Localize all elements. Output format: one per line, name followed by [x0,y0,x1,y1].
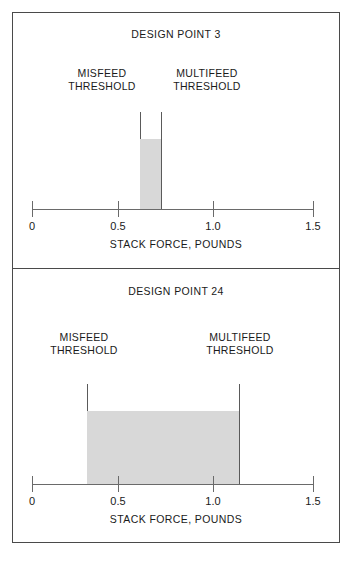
x-tick-0-5 [118,476,119,492]
operating-window-bar [87,411,239,484]
multifeed-threshold-label-line1: MULTIFEED [176,67,237,79]
misfeed-threshold-label-line2: THRESHOLD [46,344,122,357]
x-tick-0-5 [118,201,119,217]
multifeed-threshold-label: MULTIFEED THRESHOLD [164,67,250,93]
x-tick-label-1-5: 1.5 [299,220,327,232]
panel-title: DESIGN POINT 3 [12,28,340,40]
x-tick-1-5 [313,476,314,492]
x-tick-label-0: 0 [18,220,46,232]
panel-design-point-24: DESIGN POINT 24 MISFEED THRESHOLD MULTIF… [12,269,340,543]
x-tick-label-0-5: 0.5 [104,495,132,507]
x-axis-title: STACK FORCE, POUNDS [12,238,340,250]
x-axis-title: STACK FORCE, POUNDS [12,513,340,525]
multifeed-threshold-label-line2: THRESHOLD [197,344,283,357]
x-tick-label-1-0: 1.0 [199,220,227,232]
x-tick-1-0 [213,476,214,492]
figure-canvas: DESIGN POINT 3 MISFEED THRESHOLD MULTIFE… [0,0,352,563]
x-tick-label-0-5: 0.5 [104,220,132,232]
x-tick-1-5 [313,201,314,217]
x-tick-label-1-5: 1.5 [299,495,327,507]
multifeed-threshold-label: MULTIFEED THRESHOLD [197,331,283,357]
operating-window-bar [140,139,161,209]
x-tick-1-0 [213,201,214,217]
panel-design-point-3: DESIGN POINT 3 MISFEED THRESHOLD MULTIFE… [12,12,340,269]
panel-title: DESIGN POINT 24 [12,285,340,297]
misfeed-threshold-label: MISFEED THRESHOLD [46,331,122,357]
x-axis-line [32,484,313,485]
x-tick-0 [32,201,33,217]
multifeed-threshold-label-line1: MULTIFEED [209,331,270,343]
misfeed-threshold-label: MISFEED THRESHOLD [64,67,140,93]
x-tick-label-0: 0 [18,495,46,507]
misfeed-threshold-label-line1: MISFEED [78,67,127,79]
multifeed-threshold-label-line2: THRESHOLD [164,80,250,93]
x-axis-line [32,209,313,210]
misfeed-threshold-label-line2: THRESHOLD [64,80,140,93]
misfeed-threshold-label-line1: MISFEED [60,331,109,343]
x-tick-label-1-0: 1.0 [199,495,227,507]
x-tick-0 [32,476,33,492]
multifeed-threshold-line [161,112,162,209]
multifeed-threshold-line [239,384,240,484]
